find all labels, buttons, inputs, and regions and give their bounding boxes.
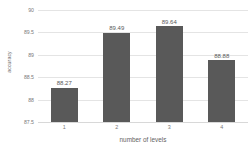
bars-layer: 88.2789.4989.6488.88 <box>38 10 248 122</box>
y-tick-label: 90 <box>28 7 34 13</box>
bar[interactable]: 89.49 <box>103 33 130 122</box>
bar-slot: 88.88 <box>196 10 249 122</box>
bar-value-label: 88.27 <box>57 80 72 86</box>
y-axis-title-label: accuracy <box>6 51 12 73</box>
bar-slot: 88.27 <box>38 10 91 122</box>
y-tick-label: 88.5 <box>24 74 34 80</box>
y-tick-label: 89 <box>28 52 34 58</box>
bar-value-label: 89.49 <box>109 25 124 31</box>
bar[interactable]: 88.88 <box>208 60 235 122</box>
plot-area: 88.2789.4989.6488.88 <box>38 10 248 122</box>
y-axis-tick-labels: 9089.58988.58887.5 <box>14 10 36 122</box>
bar-chart: accuracy 9089.58988.58887.5 88.2789.4989… <box>0 0 252 154</box>
bar[interactable]: 88.27 <box>51 88 78 122</box>
bar[interactable]: 89.64 <box>156 26 183 122</box>
bar-value-label: 88.88 <box>214 53 229 59</box>
x-axis-tick-labels: 1234 <box>38 124 248 136</box>
bar-slot: 89.49 <box>91 10 144 122</box>
y-tick-label: 89.5 <box>24 29 34 35</box>
x-tick-label: 1 <box>38 124 91 136</box>
x-axis-title: number of levels <box>38 136 248 143</box>
bar-slot: 89.64 <box>143 10 196 122</box>
gridline <box>38 122 248 123</box>
x-tick-label: 4 <box>196 124 249 136</box>
x-tick-label: 3 <box>143 124 196 136</box>
y-tick-label: 88 <box>28 97 34 103</box>
x-tick-label: 2 <box>91 124 144 136</box>
bar-value-label: 89.64 <box>162 19 177 25</box>
y-tick-label: 87.5 <box>24 119 34 125</box>
